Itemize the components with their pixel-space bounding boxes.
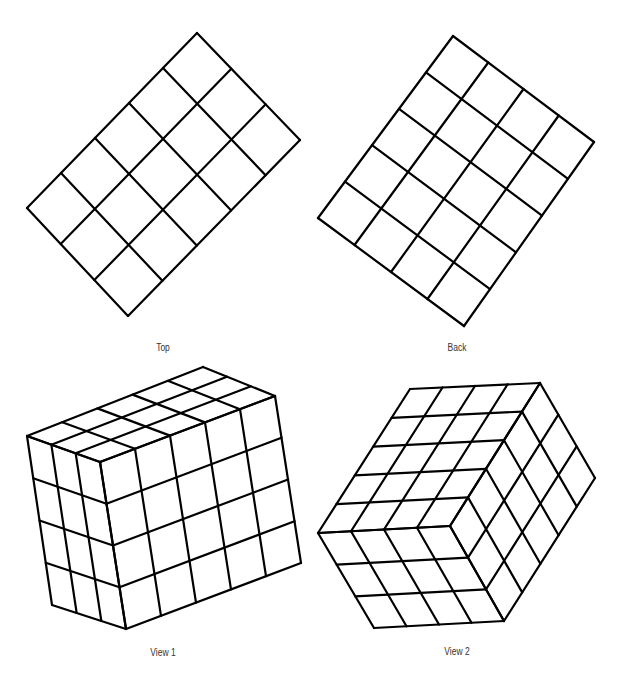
figure-back (318, 36, 594, 326)
view2-top-face (318, 383, 540, 533)
diagram-canvas (0, 0, 622, 682)
label-view2: View 2 (444, 646, 469, 657)
view1-front-face (100, 396, 301, 629)
label-view1: View 1 (150, 647, 175, 658)
label-back: Back (448, 342, 467, 353)
view1-left-face (27, 436, 126, 629)
label-top: Top (156, 342, 170, 353)
view2-front-face (318, 526, 504, 628)
figure-view1 (27, 367, 301, 629)
view1-top-face (27, 367, 275, 462)
figure-view2 (318, 383, 595, 628)
top-grid (27, 33, 300, 316)
view2-right-face (450, 383, 595, 621)
back-grid (318, 36, 594, 326)
figure-top (27, 33, 300, 316)
